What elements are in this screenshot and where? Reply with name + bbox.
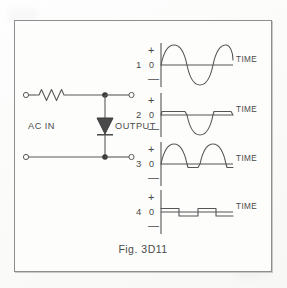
axis-label-negative: — <box>148 122 159 134</box>
axis-label-negative: — <box>148 171 159 183</box>
axis-label-positive: + <box>148 191 154 203</box>
waveform-row-number: 4 <box>136 206 141 217</box>
axis-label-positive: + <box>148 94 154 106</box>
waveform-row-number: 1 <box>136 59 141 70</box>
axis-label-negative: — <box>148 219 159 231</box>
waveform-panel-3: 3 + 0 — TIME <box>136 142 257 186</box>
axis-label-positive: + <box>148 44 154 56</box>
time-axis-label: TIME <box>236 55 257 64</box>
output-return-terminal <box>129 154 134 159</box>
axis-label-zero: 0 <box>149 159 154 169</box>
shunt-diode <box>97 118 113 135</box>
waveform-panel-2: 2 + 0 — TIME <box>136 93 257 137</box>
waveform-row-number: 2 <box>136 109 141 120</box>
waveform-panel-1: 1 + 0 — TIME <box>136 43 257 87</box>
time-axis-label: TIME <box>236 154 257 163</box>
ac-in-terminal <box>23 92 28 97</box>
axis-label-zero: 0 <box>149 60 154 70</box>
series-resistor <box>36 90 68 101</box>
axis-label-negative: — <box>148 72 159 84</box>
axis-label-zero: 0 <box>149 110 154 120</box>
output-terminal <box>129 92 134 97</box>
axis-label-zero: 0 <box>149 207 154 217</box>
ac-in-label: AC IN <box>28 121 55 131</box>
figure-page: AC IN OUTPUT 1 + 0 — TIME 2 + 0 — TIME <box>0 0 287 288</box>
circuit-schematic: AC IN OUTPUT <box>23 90 155 160</box>
time-axis-label: TIME <box>236 202 257 211</box>
axis-label-positive: + <box>148 143 154 155</box>
waveform-row-number: 3 <box>136 158 141 169</box>
ac-in-return-terminal <box>23 154 28 159</box>
figure-canvas: AC IN OUTPUT 1 + 0 — TIME 2 + 0 — TIME <box>14 20 272 272</box>
waveform-panel-4: 4 + 0 — TIME <box>136 190 257 234</box>
figure-caption: Fig. 3D11 <box>118 243 167 255</box>
time-axis-label: TIME <box>236 105 257 114</box>
